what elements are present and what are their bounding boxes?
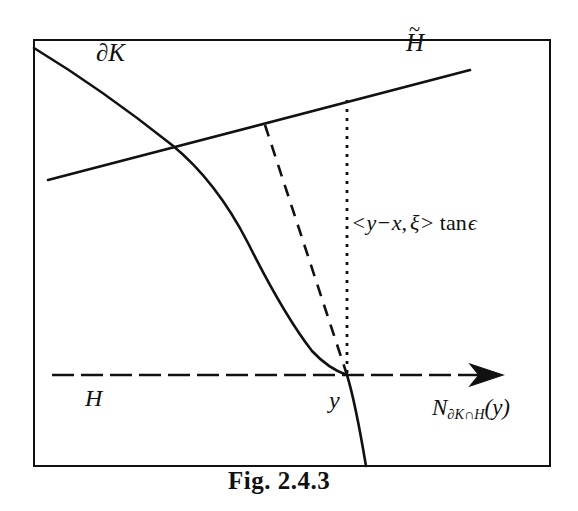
formula-epsilon: ϵ [467, 210, 477, 235]
formula-open-angle: < [351, 210, 366, 235]
formula-minus-sign: − [376, 210, 391, 235]
point-y-label: y [329, 388, 340, 412]
formula-variable-y: y [366, 210, 376, 235]
halfspace-h-label: H [85, 386, 102, 410]
tangent-formula-label: <y−x,ξ>tanϵ [351, 212, 477, 234]
formula-close-angle: > [420, 210, 435, 235]
normal-cone-label: N∂K∩H(y) [432, 396, 510, 421]
figure-caption: Fig. 2.4.3 [228, 468, 330, 493]
figure-container: ∂K ~H <y−x,ξ>tanϵ H y N∂K∩H(y) Fig. 2.4.… [0, 0, 578, 511]
normal-cone-argument: (y) [484, 395, 510, 420]
formula-variable-x: x [392, 210, 402, 235]
figure-drawing [0, 0, 578, 511]
h-tilde-line [48, 70, 470, 180]
h-tilde-label: ~H [406, 30, 424, 55]
tilde-accent-icon: ~ [409, 19, 420, 40]
normal-cone-symbol: N [432, 395, 447, 420]
normal-cone-subscript: ∂K∩H [447, 406, 484, 422]
formula-tan-operator: tan [435, 210, 467, 235]
boundary-k-label: ∂K [96, 40, 125, 65]
formula-variable-xi: ξ [407, 210, 420, 235]
inner-dashed-ray [265, 125, 347, 375]
